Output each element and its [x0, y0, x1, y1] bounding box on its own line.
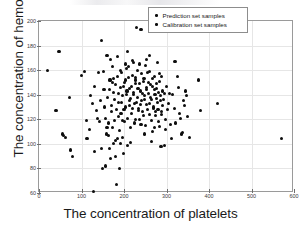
- y-tick-label: 120: [27, 116, 36, 122]
- gridline-horizontal: [39, 70, 292, 71]
- gridline-vertical: [209, 21, 210, 191]
- data-point: [110, 104, 113, 107]
- data-point: [85, 137, 88, 140]
- data-point: [152, 107, 155, 110]
- data-point: [171, 93, 174, 96]
- data-point: [148, 113, 151, 116]
- data-point: [178, 112, 181, 115]
- data-point: [155, 82, 158, 85]
- data-point: [106, 96, 109, 99]
- data-point: [117, 92, 120, 95]
- data-point: [136, 87, 139, 90]
- legend-item-prediction: Prediction set samples: [152, 11, 243, 20]
- data-point: [174, 121, 177, 124]
- data-point: [216, 102, 219, 105]
- data-point: [85, 119, 88, 122]
- y-axis-title: The concentration of hemoglobin: [11, 0, 26, 158]
- data-point: [162, 98, 165, 101]
- legend-label: Prediction set samples: [163, 12, 225, 19]
- data-point: [138, 118, 141, 121]
- data-point: [125, 93, 128, 96]
- plot-area: 6080100120140160180200010020030040050060…: [38, 20, 293, 192]
- data-point: [113, 98, 116, 101]
- data-point: [137, 109, 140, 112]
- data-point: [93, 85, 96, 88]
- data-point: [119, 86, 122, 89]
- data-point: [83, 70, 86, 73]
- data-point: [157, 91, 160, 94]
- data-point: [130, 85, 133, 88]
- data-point: [135, 26, 138, 29]
- y-tick-label: 140: [27, 92, 36, 98]
- data-point: [159, 94, 162, 97]
- data-point: [113, 119, 116, 122]
- data-point: [116, 55, 119, 58]
- data-point: [143, 98, 146, 101]
- data-point: [141, 92, 144, 95]
- data-point: [164, 128, 167, 131]
- data-point: [148, 102, 151, 105]
- data-point: [46, 69, 49, 72]
- data-point: [153, 93, 156, 96]
- data-point: [111, 126, 114, 129]
- data-point: [179, 117, 182, 120]
- data-point: [119, 112, 122, 115]
- data-point: [280, 137, 283, 140]
- data-point: [100, 147, 103, 150]
- data-point: [112, 142, 115, 145]
- data-point: [186, 115, 189, 118]
- data-point: [99, 99, 102, 102]
- data-point: [138, 62, 141, 65]
- data-point: [98, 120, 101, 123]
- gridline-vertical: [252, 21, 253, 191]
- x-tick-label: 500: [247, 193, 256, 199]
- data-point: [163, 144, 166, 147]
- data-point: [107, 134, 110, 137]
- gridline-vertical: [167, 21, 168, 191]
- data-point: [146, 108, 149, 111]
- data-point: [155, 87, 158, 90]
- data-point: [128, 99, 131, 102]
- data-point: [114, 155, 117, 158]
- data-point: [104, 117, 107, 120]
- gridline-vertical: [82, 21, 83, 191]
- data-point: [118, 129, 121, 132]
- data-point: [112, 91, 115, 94]
- data-point: [169, 123, 172, 126]
- data-point: [130, 112, 133, 115]
- x-tick-label: 200: [120, 193, 129, 199]
- data-point: [140, 72, 143, 75]
- data-point: [157, 120, 160, 123]
- cropped-title-artifact: [70, 0, 220, 5]
- y-tick: [37, 21, 41, 22]
- data-point: [138, 82, 141, 85]
- data-point: [173, 60, 176, 63]
- data-point: [108, 78, 111, 81]
- data-point: [93, 150, 96, 153]
- data-point: [54, 109, 57, 112]
- data-point: [102, 88, 105, 91]
- data-point: [68, 96, 71, 99]
- data-point: [148, 54, 151, 57]
- y-tick: [37, 70, 41, 71]
- data-point: [115, 108, 118, 111]
- data-point: [125, 89, 128, 92]
- data-point: [142, 80, 145, 83]
- data-point: [108, 147, 111, 150]
- y-tick-label: 160: [27, 67, 36, 73]
- data-point: [145, 58, 148, 61]
- data-point: [132, 61, 135, 64]
- y-tick: [37, 46, 41, 47]
- data-point: [92, 190, 95, 193]
- data-point: [151, 130, 154, 133]
- data-point: [134, 82, 137, 85]
- data-point: [177, 86, 180, 89]
- scatter-plot-figure: The concentration of hemoglobin The conc…: [0, 0, 301, 229]
- x-axis-title: The concentration of platelets: [0, 206, 301, 221]
- legend-item-calibration: Calibration set samples: [152, 20, 243, 29]
- data-point: [143, 94, 146, 97]
- data-point: [153, 126, 156, 129]
- data-point: [155, 97, 158, 100]
- data-point: [64, 136, 67, 139]
- data-point: [71, 155, 74, 158]
